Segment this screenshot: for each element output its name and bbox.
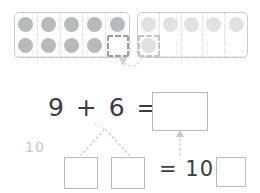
counter-chip: [18, 38, 33, 53]
main-equation-text: 9 + 6 =: [48, 93, 160, 122]
ten-frame-cell[interactable]: [160, 13, 182, 35]
counter-chip: [18, 17, 33, 32]
moving-chip-highlight[interactable]: [138, 35, 160, 57]
ten-frame-cell[interactable]: [61, 13, 84, 35]
counter-chip: [141, 17, 156, 32]
counter-chip: [184, 17, 199, 32]
counter-chip: [64, 17, 79, 32]
ten-frame-cell[interactable]: [138, 13, 160, 35]
ten-frame-cell[interactable]: [15, 35, 38, 57]
ten-frame-cell[interactable]: [38, 13, 61, 35]
part-box-2[interactable]: [111, 157, 145, 189]
ten-frame-cell[interactable]: [225, 35, 247, 57]
ten-frame-cell[interactable]: [83, 13, 106, 35]
remainder-answer-box[interactable]: [216, 157, 246, 187]
ten-frame-cell[interactable]: [38, 35, 61, 57]
counter-chip: [229, 17, 244, 32]
ten-frame-cell[interactable]: [203, 35, 225, 57]
parts-to-sum-arrow: [176, 130, 184, 155]
counter-chip: [206, 17, 221, 32]
ten-frame-cell[interactable]: [160, 35, 182, 57]
sum-answer-box[interactable]: [152, 92, 208, 131]
ten-frame-cell[interactable]: [182, 13, 204, 35]
ten-frame-cell[interactable]: [203, 13, 225, 35]
counter-chip: [87, 17, 102, 32]
part-box-1[interactable]: [64, 157, 98, 189]
counter-chip: [64, 38, 79, 53]
ten-reference-label: 10: [25, 139, 45, 155]
worksheet-canvas: 9 + 6 = 10 = 10 +: [0, 0, 260, 193]
ten-frame-cell[interactable]: [15, 13, 38, 35]
counter-chip: [41, 38, 56, 53]
ten-frame-cell[interactable]: [83, 35, 106, 57]
sum-to-parts-branch: [81, 124, 129, 155]
ten-frame-cell[interactable]: [182, 35, 204, 57]
counter-chip: [110, 17, 125, 32]
ten-frame-cell[interactable]: [225, 13, 247, 35]
ten-frame-cell[interactable]: [61, 35, 84, 57]
counter-chip: [163, 17, 178, 32]
counter-chip: [41, 17, 56, 32]
counter-chip: [87, 38, 102, 53]
empty-slot-highlight[interactable]: [107, 35, 129, 57]
ten-frame-cell[interactable]: [106, 13, 129, 35]
